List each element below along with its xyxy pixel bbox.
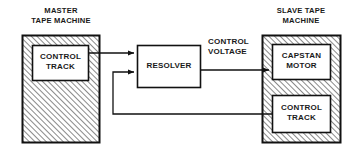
slave-capstan-motor-label: CAPSTAN MOTOR xyxy=(272,51,331,71)
control-voltage-label: CONTROL VOLTAGE xyxy=(208,37,264,57)
master-machine-caption: MASTER TAPE MACHINE xyxy=(16,6,106,25)
master-control-track-label: CONTROL TRACK xyxy=(32,52,89,72)
diagram-canvas: MASTER TAPE MACHINE SLAVE TAPE MACHINE C… xyxy=(0,0,354,154)
slave-control-track-label: CONTROL TRACK xyxy=(272,103,331,123)
slave-machine-caption: SLAVE TAPE MACHINE xyxy=(256,6,346,25)
resolver-label: RESOLVER xyxy=(137,61,201,71)
